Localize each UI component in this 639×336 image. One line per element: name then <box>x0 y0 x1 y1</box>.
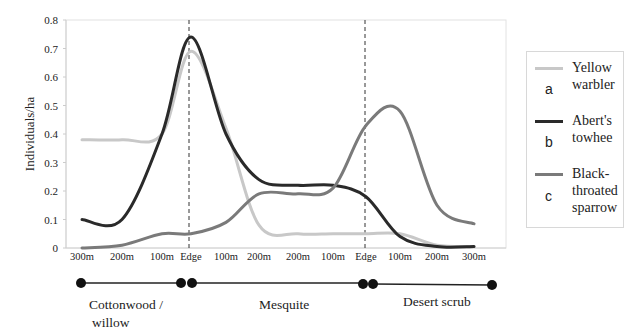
desert-segment <box>373 284 492 285</box>
habitat-node <box>368 279 378 289</box>
y-tick-label: 0.5 <box>44 100 58 112</box>
habitat-node <box>187 278 197 288</box>
y-tick-labels: 00.10.20.30.40.50.60.70.8 <box>44 14 66 254</box>
y-tick-label: 0.2 <box>44 185 58 197</box>
x-tick-label: 200m <box>247 251 271 262</box>
x-tick-label: 100m <box>214 251 238 262</box>
legend-letter: a <box>545 81 553 97</box>
legend-label: Abert'stowhee <box>572 112 612 146</box>
y-tick-label: 0.1 <box>44 214 58 226</box>
legend: a Yellowwarbler b Abert'stowhee c Black-… <box>526 51 624 228</box>
legend-swatch-icon <box>535 67 563 70</box>
y-tick-label: 0.7 <box>44 43 58 55</box>
habitat-bar <box>76 278 497 290</box>
x-tick-label: 100m <box>150 251 174 262</box>
x-tick-label: Edge <box>180 251 202 262</box>
series-lines <box>82 37 474 248</box>
habitat-label-line: willow <box>89 314 163 332</box>
x-tick-label: 100m <box>321 251 345 262</box>
x-tick-label: 200m <box>286 251 310 262</box>
habitat-label-line: Cottonwood / <box>89 296 163 314</box>
legend-swatch-icon <box>535 120 563 123</box>
y-tick-label: 0.3 <box>44 157 58 169</box>
x-tick-label: Edge <box>355 251 377 262</box>
legend-letter: b <box>545 134 553 150</box>
series-line-c <box>82 106 474 248</box>
x-tick-label: 300m <box>462 251 486 262</box>
x-tick-label: 200m <box>425 251 449 262</box>
habitat-label-desert: Desert scrub <box>403 293 471 311</box>
x-tick-labels: 300m200m100mEdge100m200m200m100mEdge100m… <box>70 251 486 262</box>
habitat-node <box>176 278 186 288</box>
legend-label: Black-throatedsparrow <box>572 165 618 216</box>
y-tick-label: 0.6 <box>44 71 58 83</box>
legend-letter: c <box>545 188 552 204</box>
habitat-node <box>487 280 497 290</box>
y-tick-label: 0.8 <box>44 14 58 26</box>
legend-label: Yellowwarbler <box>572 59 615 93</box>
habitat-label-mesquite: Mesquite <box>259 296 309 314</box>
habitat-node <box>358 279 368 289</box>
y-axis-title: Individuals/ha <box>22 97 37 172</box>
x-tick-label: 300m <box>70 251 94 262</box>
x-tick-label: 100m <box>388 251 412 262</box>
legend-swatch-icon <box>535 173 563 176</box>
plot-area <box>66 20 506 248</box>
y-tick-label: 0 <box>53 242 59 254</box>
habitat-node <box>76 278 86 288</box>
x-tick-label: 200m <box>110 251 134 262</box>
y-tick-label: 0.4 <box>44 128 58 140</box>
habitat-label-cottonwood: Cottonwood / willow <box>89 296 163 332</box>
